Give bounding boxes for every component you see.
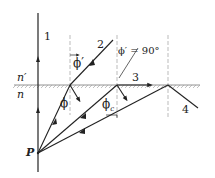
source-point [37,152,39,154]
angle-label-phi-prime: ϕ′ [73,57,84,69]
ray-label-2: 2 [97,39,104,50]
ray-1 [36,13,40,172]
ray-label-4: 4 [182,104,189,115]
angle-label-phi-c: ϕc [102,98,114,113]
phi-c-symbol: ϕ [102,97,110,111]
ray-3 [38,85,150,153]
point-label: P [26,147,34,158]
ray-label-3: 3 [132,72,139,83]
ray-label-1: 1 [44,31,51,42]
angle-label-phi-prime-90: ϕ′ = 90° [118,46,160,56]
phi-c-subscript: c [110,105,114,113]
angle-label-phi: ϕ [60,97,68,109]
medium-label-lower: n [17,89,24,100]
medium-label-upper: n′ [17,72,27,83]
